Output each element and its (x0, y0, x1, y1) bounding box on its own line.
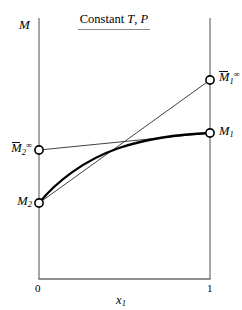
x-axis-label: x1 (0, 294, 242, 308)
chart-title-T: T (127, 12, 134, 26)
partial-molar-property-figure: M Constant T, P M1∞ M1 M2∞ M2 0 1 x1 (0, 0, 242, 310)
label-m1-base: M (219, 124, 229, 138)
label-mbar1-infinity-sup: ∞ (234, 69, 240, 79)
chart-title: Constant T, P (64, 13, 164, 27)
label-mbar2-infinity-base: M (11, 142, 21, 155)
y-axis-label: M (19, 18, 30, 31)
label-m2-sub: 2 (28, 199, 32, 209)
marker-mbar1-infinity (206, 76, 214, 84)
label-m2-base: M (17, 194, 27, 208)
chart-title-block: Constant T, P (64, 13, 164, 30)
chart-title-P: P (141, 12, 149, 26)
label-mbar1-infinity: M1∞ (219, 70, 240, 85)
x-tick-label-1: 1 (207, 283, 213, 294)
marker-mbar2-infinity (35, 146, 43, 154)
chart-title-underline (78, 29, 150, 30)
label-m2: M2 (17, 195, 32, 209)
label-m1: M1 (219, 125, 234, 139)
label-mbar2-infinity-sup: ∞ (26, 140, 32, 150)
label-mbar1-infinity-base: M (219, 71, 229, 84)
plot-canvas (0, 0, 242, 310)
marker-m1 (206, 129, 214, 137)
label-mbar2-infinity: M2∞ (11, 141, 32, 156)
mixture-property-curve (39, 133, 210, 203)
marker-m2 (35, 199, 43, 207)
label-m1-sub: 1 (229, 129, 233, 139)
x-axis-label-sub: 1 (122, 298, 126, 308)
x-tick-label-0: 0 (35, 283, 41, 294)
